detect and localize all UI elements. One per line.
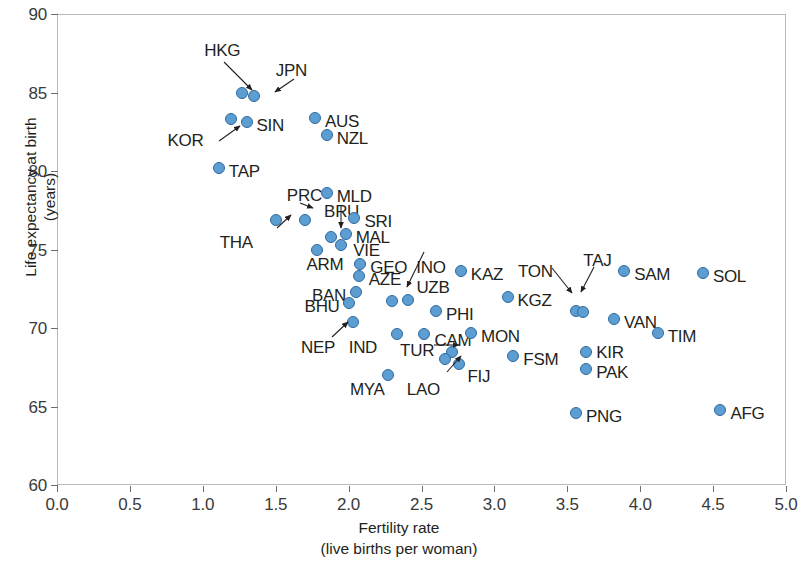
- x-axis-title-sub: (live births per woman): [321, 540, 478, 557]
- data-point-marker: [465, 327, 477, 339]
- data-point-label: INO: [416, 259, 445, 276]
- y-tick-label: 90: [7, 5, 47, 25]
- data-point-label: KAZ: [471, 266, 503, 283]
- data-point-label: TON: [518, 263, 553, 280]
- data-point-label: KGZ: [518, 292, 552, 309]
- y-tick-mark: [51, 328, 58, 329]
- x-tick-mark: [57, 486, 58, 492]
- data-point-label: THA: [220, 234, 253, 251]
- x-tick-mark: [130, 486, 131, 492]
- data-point-marker: [340, 228, 352, 240]
- x-tick-mark: [349, 486, 350, 492]
- data-point-label: MON: [481, 328, 520, 345]
- x-tick-label: 1.0: [173, 495, 233, 515]
- data-point-marker: [311, 244, 323, 256]
- data-point-marker: [270, 214, 282, 226]
- data-point-label: AUS: [325, 113, 359, 130]
- data-point-marker: [299, 214, 311, 226]
- x-tick-mark: [203, 486, 204, 492]
- y-axis-title-main: Life expectancy at birth: [22, 117, 39, 276]
- data-point-marker: [309, 112, 321, 124]
- data-point-label: AZE: [369, 271, 401, 288]
- x-tick-label: 0.5: [100, 495, 160, 515]
- data-point-marker: [714, 404, 726, 416]
- data-point-marker: [236, 87, 248, 99]
- data-point-marker: [321, 129, 333, 141]
- data-point-label: LAO: [407, 381, 440, 398]
- data-point-label: JPN: [276, 62, 307, 79]
- data-point-marker: [570, 407, 582, 419]
- data-point-label: TAP: [229, 163, 260, 180]
- y-tick-label: 60: [7, 476, 47, 496]
- data-point-label: SAM: [634, 266, 670, 283]
- data-point-marker: [580, 346, 592, 358]
- data-point-label: PAK: [596, 364, 628, 381]
- data-point-marker: [608, 313, 620, 325]
- data-point-label: NZL: [337, 130, 368, 147]
- data-point-label: ARM: [307, 256, 344, 273]
- data-point-marker: [241, 116, 253, 128]
- data-point-marker: [248, 90, 260, 102]
- x-axis-title-main: Fertility rate: [359, 519, 440, 536]
- y-axis-title: Life expectancy at birth (years): [21, 87, 59, 307]
- data-point-marker: [347, 316, 359, 328]
- data-point-label: SOL: [713, 268, 746, 285]
- data-point-marker: [391, 328, 403, 340]
- x-tick-label: 0.0: [27, 495, 87, 515]
- data-point-label: KIR: [596, 344, 623, 361]
- data-point-label: NEP: [301, 339, 335, 356]
- data-point-label: PNG: [586, 408, 622, 425]
- data-point-marker: [350, 286, 362, 298]
- x-tick-mark: [276, 486, 277, 492]
- y-tick-mark: [51, 407, 58, 408]
- data-point-label: VIE: [353, 242, 380, 259]
- data-point-label: PRC: [287, 187, 322, 204]
- data-point-marker: [354, 258, 366, 270]
- data-point-marker: [321, 187, 333, 199]
- data-point-label: VAN: [624, 314, 657, 331]
- data-point-label: UZB: [416, 279, 449, 296]
- data-point-marker: [353, 270, 365, 282]
- data-point-label: KOR: [168, 132, 204, 149]
- data-point-label: PHI: [446, 306, 473, 323]
- y-axis-title-sub: (years): [41, 173, 58, 221]
- x-tick-label: 3.5: [537, 495, 597, 515]
- x-axis-title: Fertility rate (live births per woman): [0, 517, 798, 559]
- y-tick-label: 65: [7, 398, 47, 418]
- data-point-label: TAJ: [583, 252, 611, 269]
- data-point-marker: [697, 267, 709, 279]
- data-point-label: SIN: [257, 117, 284, 134]
- y-tick-label: 70: [7, 319, 47, 339]
- data-point-marker: [335, 239, 347, 251]
- x-tick-label: 2.5: [392, 495, 452, 515]
- data-point-marker: [343, 297, 355, 309]
- x-tick-mark: [713, 486, 714, 492]
- plot-area: [57, 14, 786, 485]
- data-point-label: FSM: [523, 351, 558, 368]
- x-tick-label: 1.5: [246, 495, 306, 515]
- data-point-marker: [652, 327, 664, 339]
- data-point-label: AFG: [730, 405, 764, 422]
- y-tick-mark: [51, 14, 58, 15]
- data-point-label: BHU: [305, 298, 340, 315]
- data-point-label: IND: [349, 339, 377, 356]
- data-point-label: TUR: [400, 342, 434, 359]
- x-tick-mark: [567, 486, 568, 492]
- x-tick-label: 4.0: [610, 495, 670, 515]
- x-tick-label: 2.0: [319, 495, 379, 515]
- x-tick-label: 5.0: [756, 495, 798, 515]
- data-point-label: HKG: [204, 42, 240, 59]
- x-tick-mark: [422, 486, 423, 492]
- x-tick-mark: [640, 486, 641, 492]
- x-tick-label: 3.0: [464, 495, 524, 515]
- data-point-label: MYA: [350, 381, 385, 398]
- data-point-marker: [213, 162, 225, 174]
- data-point-marker: [225, 113, 237, 125]
- data-point-marker: [580, 363, 592, 375]
- x-tick-label: 4.5: [683, 495, 743, 515]
- scatter-chart-figure: 60657075808590 0.00.51.01.52.02.53.03.54…: [0, 0, 798, 567]
- data-point-marker: [430, 305, 442, 317]
- data-point-label: FIJ: [467, 368, 490, 385]
- data-point-marker: [502, 291, 514, 303]
- x-tick-mark: [494, 486, 495, 492]
